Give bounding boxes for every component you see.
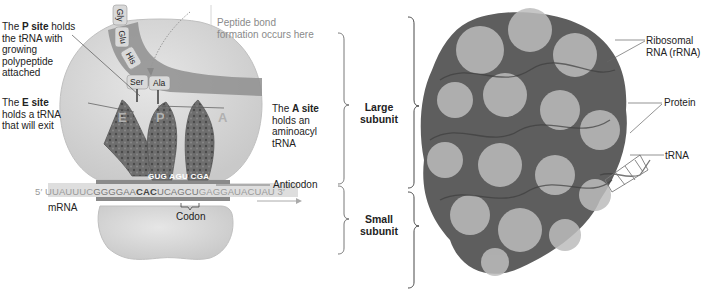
site-letter-e: E xyxy=(118,110,127,125)
protein-label: Protein xyxy=(664,97,696,109)
mrna-sequence: 5′ UUAUUUCGGGGAACACUCAGCUGAGGAUACUAU 3′ xyxy=(35,186,285,197)
large-subunit-brace xyxy=(408,17,419,188)
rrna-label: Ribosomal RNA (rRNA) xyxy=(646,35,704,58)
peptide-bond-label: Peptide bond formation occurs here xyxy=(217,17,347,40)
codon-label: Codon xyxy=(176,211,205,223)
p-site-label: The P site holds the tRNA with growing p… xyxy=(2,21,82,79)
amino-acid-glu: Glu xyxy=(117,30,129,45)
amino-acid-gly: Gly xyxy=(115,9,125,22)
large-subunit-label: Large subunit xyxy=(355,101,403,125)
a-site-label: The A site holds an aminoacyl tRNA xyxy=(272,103,342,149)
ribosome-molecular-model xyxy=(421,8,650,276)
amino-acid-ala: Ala xyxy=(153,78,165,88)
small-subunit-label: Small subunit xyxy=(355,213,403,237)
e-site-label: The E site holds a tRNA that will exit xyxy=(2,97,82,132)
amino-acid-ser: Ser xyxy=(130,77,143,87)
trna-label: tRNA xyxy=(665,150,689,162)
site-letter-a: A xyxy=(218,110,227,125)
small-subunit-brace xyxy=(408,192,419,288)
anticodon-sequence: GUG AGU CGA xyxy=(148,172,209,181)
ribosome-schematic xyxy=(0,0,704,292)
site-letter-p: P xyxy=(156,110,165,125)
mrna-label: mRNA xyxy=(48,202,77,214)
small-subunit-shape xyxy=(98,206,233,259)
